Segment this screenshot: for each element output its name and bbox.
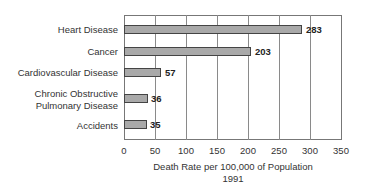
x-tick: 300 bbox=[302, 145, 318, 156]
x-tick: 250 bbox=[271, 145, 287, 156]
category-label: Accidents bbox=[77, 120, 118, 131]
value-label: 57 bbox=[165, 67, 176, 78]
bar-copd bbox=[124, 94, 148, 103]
bar-cancer bbox=[124, 47, 251, 56]
bar-cardiovascular bbox=[124, 68, 161, 77]
category-label: Heart Disease bbox=[58, 24, 118, 35]
x-axis-year: 1991 bbox=[124, 173, 342, 185]
category-label: Cardiovascular Disease bbox=[18, 67, 118, 78]
bar-accidents bbox=[124, 120, 147, 129]
bar-heart-disease bbox=[124, 25, 302, 34]
value-label: 36 bbox=[151, 93, 162, 104]
category-label: Chronic Obstructive bbox=[35, 88, 118, 99]
value-label: 35 bbox=[150, 119, 161, 130]
x-tick: 150 bbox=[209, 145, 225, 156]
x-tick: 50 bbox=[150, 145, 161, 156]
value-label: 283 bbox=[306, 24, 322, 35]
x-tick: 200 bbox=[240, 145, 256, 156]
x-tick: 350 bbox=[333, 145, 349, 156]
value-label: 203 bbox=[255, 46, 271, 57]
category-label: Pulmonary Disease bbox=[36, 100, 118, 111]
x-axis-label: Death Rate per 100,000 of Population bbox=[124, 161, 342, 173]
x-tick: 0 bbox=[121, 145, 126, 156]
x-tick: 100 bbox=[178, 145, 194, 156]
category-label: Cancer bbox=[87, 46, 118, 57]
